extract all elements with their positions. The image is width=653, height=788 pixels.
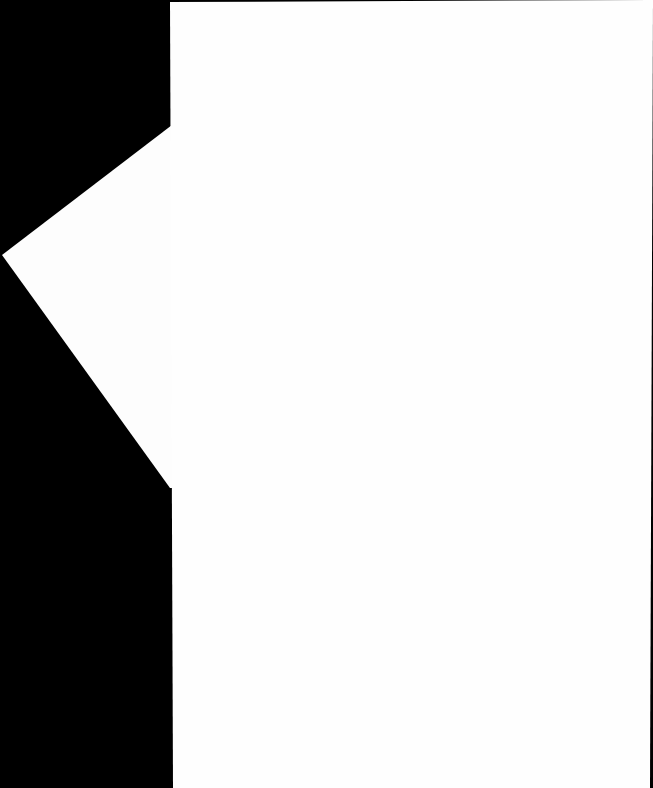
front-blank-sheet — [170, 0, 653, 788]
paper-sheets — [0, 0, 653, 788]
